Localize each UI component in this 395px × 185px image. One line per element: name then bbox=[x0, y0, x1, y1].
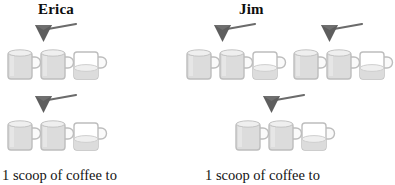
mug-row bbox=[4, 115, 108, 155]
mug-row bbox=[290, 44, 394, 84]
caption-jim: 1 scoop of coffee to bbox=[205, 167, 320, 184]
scoop-mug-group bbox=[183, 22, 287, 84]
mug-row bbox=[183, 44, 287, 84]
column-erica: Erica bbox=[0, 0, 197, 185]
coffee-scoop-icon bbox=[211, 22, 257, 44]
coffee-scoop-icon bbox=[318, 22, 364, 44]
scoop-mug-group bbox=[4, 93, 108, 155]
coffee-mug-partial-icon bbox=[70, 44, 110, 84]
person-title-jim: Jim bbox=[239, 1, 264, 18]
coffee-mug-partial-icon bbox=[298, 115, 338, 155]
column-jim: Jim bbox=[197, 0, 395, 185]
coffee-mug-partial-icon bbox=[356, 44, 395, 84]
person-title-erica: Erica bbox=[38, 1, 74, 18]
caption-erica: 1 scoop of coffee to bbox=[2, 167, 117, 184]
mug-row bbox=[4, 44, 108, 84]
scoop-mug-group bbox=[232, 93, 336, 155]
ratio-diagram-figure: Erica bbox=[0, 0, 395, 185]
coffee-mug-partial-icon bbox=[70, 115, 110, 155]
coffee-scoop-icon bbox=[32, 93, 78, 115]
coffee-scoop-icon bbox=[32, 22, 78, 44]
mug-row bbox=[232, 115, 336, 155]
scoop-mug-group bbox=[4, 22, 108, 84]
scoop-mug-group bbox=[290, 22, 394, 84]
coffee-scoop-icon bbox=[260, 93, 306, 115]
coffee-mug-partial-icon bbox=[249, 44, 289, 84]
